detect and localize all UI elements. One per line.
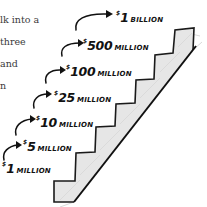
unit: MILLION	[97, 70, 131, 78]
currency-symbol: $	[23, 138, 27, 145]
amount: 10	[40, 115, 57, 130]
unit: MILLION	[114, 44, 148, 52]
currency-symbol: $	[83, 37, 87, 44]
unit: MILLION	[17, 167, 51, 175]
level-label-10-million: $10MILLION	[36, 114, 93, 130]
arrow-icon	[16, 119, 32, 135]
currency-symbol: $	[66, 63, 70, 70]
unit: MILLION	[77, 96, 111, 104]
currency-symbol: $	[36, 114, 40, 121]
amount: 500	[87, 38, 112, 53]
amount: 25	[58, 90, 75, 105]
level-label-25-million: $25MILLION	[54, 89, 111, 105]
amount: 1	[120, 10, 128, 25]
currency-symbol: $	[54, 89, 58, 96]
level-label-500-million: $500MILLION	[83, 37, 149, 53]
arrow-icon	[76, 14, 108, 30]
currency-symbol: $	[2, 160, 6, 167]
unit: MILLION	[38, 145, 72, 153]
amount: 5	[27, 139, 35, 154]
amount: 1	[6, 161, 14, 176]
unit: MILLION	[59, 121, 93, 129]
arrow-icon	[4, 145, 18, 160]
arrow-icon	[46, 70, 62, 83]
level-label-1-billion: $1BILLION	[116, 9, 163, 25]
unit: BILLION	[131, 16, 164, 24]
arrow-icon	[62, 43, 80, 56]
currency-symbol: $	[116, 9, 120, 16]
arrow-icon	[34, 94, 48, 108]
level-label-5-million: $5MILLION	[23, 138, 72, 154]
amount: 100	[70, 64, 95, 79]
level-label-1-million: $1MILLION	[2, 160, 51, 176]
level-label-100-million: $100MILLION	[66, 63, 132, 79]
